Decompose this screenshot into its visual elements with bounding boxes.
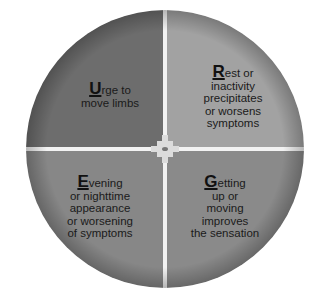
quadrant-label-rest: Rest or inactivity precipitates or worse…: [190, 66, 276, 130]
quadrant-label-evening: Evening or nighttime appearance or worse…: [60, 176, 140, 240]
urge-quadrant-diagram: [0, 0, 321, 307]
initial-letter: E: [77, 172, 88, 191]
initial-letter: G: [204, 172, 217, 191]
initial-letter: U: [89, 79, 101, 98]
initial-letter: R: [212, 62, 224, 81]
quadrant-label-urge: Urge to move limbs: [70, 83, 150, 109]
quadrant-label-getting: Getting up or moving improves the sensat…: [185, 176, 265, 240]
